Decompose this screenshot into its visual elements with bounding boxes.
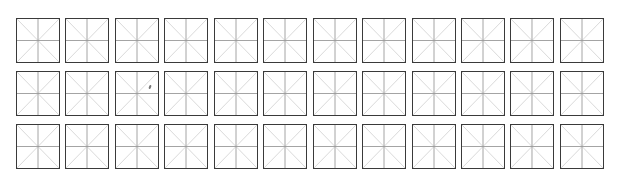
practice-cell (164, 71, 208, 116)
practice-cell (412, 18, 456, 63)
mi-grid-guide-icon (17, 72, 59, 115)
mi-grid-guide-icon (462, 125, 504, 168)
practice-cell (164, 18, 208, 63)
practice-cell (510, 18, 554, 63)
mi-grid-guide-icon (215, 19, 257, 62)
practice-cell (263, 18, 307, 63)
mi-grid-guide-icon (363, 19, 405, 62)
practice-cell (560, 71, 604, 116)
mi-grid-guide-icon (462, 72, 504, 115)
mi-grid-guide-icon (116, 19, 158, 62)
mi-grid-guide-icon (264, 72, 306, 115)
grid-row (16, 71, 609, 116)
practice-cell (214, 18, 258, 63)
mi-grid-guide-icon (511, 19, 553, 62)
practice-sheet (0, 0, 619, 176)
grid-row (16, 124, 609, 169)
mi-grid-guide-icon (314, 72, 356, 115)
mi-grid-guide-icon (17, 19, 59, 62)
mi-grid-guide-icon (165, 125, 207, 168)
practice-cell (560, 124, 604, 169)
practice-cell (510, 124, 554, 169)
mi-grid-guide-icon (511, 72, 553, 115)
practice-cell (263, 71, 307, 116)
practice-cell (461, 18, 505, 63)
practice-cell (115, 124, 159, 169)
mi-grid-guide-icon (66, 19, 108, 62)
mi-grid-guide-icon (165, 72, 207, 115)
practice-cell (362, 71, 406, 116)
mi-grid-guide-icon (66, 72, 108, 115)
practice-cell (263, 124, 307, 169)
practice-cell (214, 71, 258, 116)
mi-grid-guide-icon (116, 125, 158, 168)
practice-cell (16, 71, 60, 116)
mi-grid-guide-icon (17, 125, 59, 168)
practice-cell (412, 71, 456, 116)
mi-grid-guide-icon (462, 19, 504, 62)
mi-grid-guide-icon (561, 125, 603, 168)
mi-grid-guide-icon (363, 72, 405, 115)
practice-cell (65, 124, 109, 169)
practice-cell (16, 124, 60, 169)
practice-cell (65, 18, 109, 63)
practice-cell (412, 124, 456, 169)
mi-grid-guide-icon (363, 125, 405, 168)
practice-cell (115, 18, 159, 63)
mi-grid-guide-icon (66, 125, 108, 168)
mi-grid-guide-icon (314, 19, 356, 62)
mi-grid-guide-icon (413, 19, 455, 62)
mi-grid-guide-icon (165, 19, 207, 62)
mi-grid-guide-icon (215, 125, 257, 168)
practice-cell (313, 124, 357, 169)
mi-grid-guide-icon (215, 72, 257, 115)
practice-cell (214, 124, 258, 169)
practice-cell (115, 71, 159, 116)
mi-grid-guide-icon (511, 125, 553, 168)
mi-grid-guide-icon (314, 125, 356, 168)
practice-cell (362, 18, 406, 63)
practice-cell (461, 71, 505, 116)
mi-grid-guide-icon (116, 72, 158, 115)
practice-cell (510, 71, 554, 116)
grid-row (16, 18, 609, 63)
mi-grid-guide-icon (264, 19, 306, 62)
mi-grid-guide-icon (264, 125, 306, 168)
practice-cell (65, 71, 109, 116)
practice-cell (461, 124, 505, 169)
mi-grid-guide-icon (561, 72, 603, 115)
practice-cell (313, 71, 357, 116)
mi-grid-guide-icon (413, 72, 455, 115)
practice-cell (164, 124, 208, 169)
mi-grid-guide-icon (413, 125, 455, 168)
practice-cell (16, 18, 60, 63)
practice-cell (362, 124, 406, 169)
mi-grid-guide-icon (561, 19, 603, 62)
practice-cell (313, 18, 357, 63)
practice-cell (560, 18, 604, 63)
